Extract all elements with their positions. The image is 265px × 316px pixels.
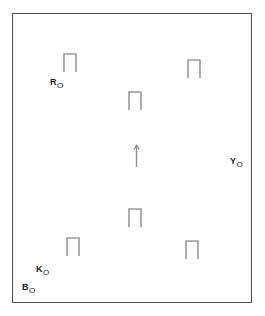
reference-label-b0: BO: [22, 283, 35, 295]
reference-label-y0-subscript: O: [237, 160, 243, 169]
mark-top-right: [186, 58, 202, 79]
mark-bottom-left: [65, 236, 81, 257]
reference-label-k0-base: K: [36, 264, 43, 274]
mark-center-arrow: [132, 144, 141, 167]
mark-top-left: [62, 52, 78, 73]
reference-label-r0: RO: [50, 78, 63, 90]
mark-upper-center: [127, 90, 143, 111]
reference-label-r0-base: R: [50, 77, 57, 87]
reference-label-y0-base: Y: [230, 156, 236, 166]
reference-label-k0-subscript: O: [43, 268, 49, 277]
figure-canvas: RO YO KO BO: [0, 0, 265, 316]
reference-label-b0-subscript: O: [29, 286, 35, 295]
reference-label-r0-subscript: O: [57, 81, 63, 90]
reference-label-k0: KO: [36, 265, 49, 277]
mark-lower-center: [127, 207, 143, 228]
mark-bottom-right: [184, 239, 200, 260]
reference-label-y0: YO: [230, 157, 243, 169]
reference-label-b0-base: B: [22, 282, 29, 292]
